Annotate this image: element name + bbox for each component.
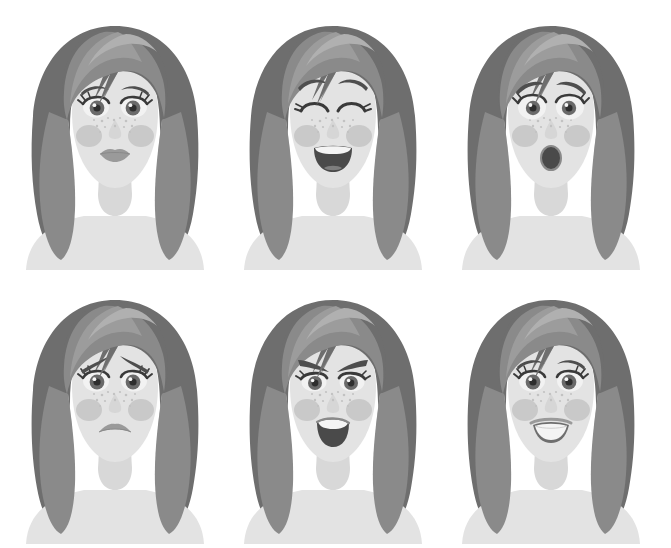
- mouth: [541, 146, 561, 170]
- face-card-surprised: Surprised / shocked: [442, 8, 660, 270]
- face-illustration-happy: [224, 8, 442, 270]
- face-illustration-smiling: [442, 282, 660, 544]
- face-card-happy: Laughing / joyful: [224, 8, 442, 270]
- face-card-sad: Sad / worried: [6, 282, 224, 544]
- face-illustration-angry: [224, 282, 442, 544]
- face-illustration-sad: [6, 282, 224, 544]
- expressions-illustration-sheet: Neutral / calm Laughing / joyful: [0, 0, 671, 548]
- face-illustration-neutral: [6, 8, 224, 270]
- face-card-neutral: Neutral / calm: [6, 8, 224, 270]
- face-card-smiling: Smiling / pleased: [442, 282, 660, 544]
- face-card-angry: Angry / shouting: [224, 282, 442, 544]
- face-illustration-surprised: [442, 8, 660, 270]
